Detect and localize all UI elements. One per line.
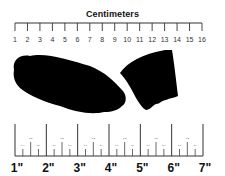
fraction-tick-label: 1/4 [52, 144, 56, 147]
fraction-tick-label: 1/4 [146, 144, 150, 147]
fraction-tick-label: 1/2 [60, 137, 64, 140]
cm-tick-label: 3 [38, 36, 42, 43]
cm-tick-label: 11 [136, 36, 143, 43]
cm-tick-label: 8 [100, 36, 104, 43]
cm-tick-label: 15 [186, 36, 194, 43]
fraction-tick-label: 1/2 [29, 137, 33, 140]
inch-tick-label: 7" [199, 161, 211, 175]
fraction-tick-label: 3/4 [68, 144, 72, 147]
left-fragment-silhouette [14, 55, 126, 113]
cm-tick-label: 16 [198, 36, 206, 43]
inch-tick-label: 1" [11, 161, 23, 175]
cm-tick-label: 2 [26, 36, 30, 43]
cm-tick-label: 6 [75, 36, 79, 43]
fraction-tick-label: 1/2 [186, 137, 190, 140]
cm-tick-label: 5 [63, 36, 67, 43]
scale-figure: 12345678910111213141516 1"1/41/23/42"1/4… [0, 0, 225, 176]
fraction-tick-label: 1/2 [123, 137, 127, 140]
fraction-tick-label: 3/4 [99, 144, 103, 147]
inch-ruler: 1"1/41/23/42"1/41/23/43"1/41/23/44"1/41/… [11, 124, 211, 175]
cm-tick-label: 4 [50, 36, 54, 43]
inch-tick-label: 6" [167, 161, 179, 175]
fraction-tick-label: 3/4 [162, 144, 166, 147]
cm-tick-label: 1 [13, 36, 17, 43]
fraction-tick-label: 1/2 [154, 137, 158, 140]
fraction-tick-label: 3/4 [193, 144, 197, 147]
fraction-tick-label: 1/4 [178, 144, 182, 147]
cm-tick-label: 14 [173, 36, 181, 43]
cm-tick-label: 7 [88, 36, 92, 43]
inch-tick-label: 2" [42, 161, 54, 175]
inch-tick-label: 3" [73, 161, 85, 175]
cm-tick-label: 12 [148, 36, 156, 43]
cm-tick-label: 13 [161, 36, 169, 43]
fraction-tick-label: 3/4 [37, 144, 41, 147]
fraction-tick-label: 1/4 [84, 144, 88, 147]
right-fragment-silhouette [120, 50, 178, 110]
cm-tick-label: 10 [123, 36, 131, 43]
inch-tick-label: 5" [136, 161, 148, 175]
fraction-tick-label: 3/4 [131, 144, 135, 147]
fraction-tick-label: 1/2 [92, 137, 96, 140]
fraction-tick-label: 1/4 [115, 144, 119, 147]
specimen-silhouette [14, 50, 178, 113]
centimeter-ruler: 12345678910111213141516 [13, 23, 206, 43]
cm-tick-label: 9 [113, 36, 117, 43]
inch-tick-label: 4" [105, 161, 117, 175]
fraction-tick-label: 1/4 [21, 144, 25, 147]
